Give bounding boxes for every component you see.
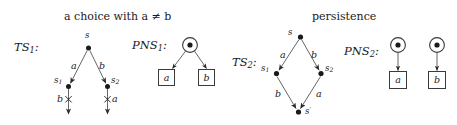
ts1-node-label-s: s [85, 30, 89, 40]
ts1-node-label-s2: s2 [111, 75, 119, 85]
ts2-node-s [298, 34, 303, 39]
ts1-s1-sub: 1 [58, 78, 62, 85]
ts1-s2-sub: 2 [115, 78, 119, 85]
system-label-ts1: TS1: [14, 40, 39, 55]
pns1-transition-b-label: b [203, 73, 209, 83]
ts2-node-s2 [318, 71, 323, 76]
ts1-node-s2 [105, 84, 110, 89]
ts2-node-s1 [274, 71, 279, 76]
ts1-label-text: TS [14, 40, 30, 54]
pns1-label-colon: : [163, 38, 167, 52]
ts1-edge-label-bottom-right: a [112, 93, 118, 104]
ts2-node-label-s1: s1 [261, 63, 269, 73]
ts2-nodes [274, 34, 324, 114]
pns2-transition-box-a[interactable]: a [389, 71, 407, 89]
ts2-node-label-s: s [288, 27, 292, 37]
ts1-edge-label-a: a [71, 60, 77, 71]
ts1-edge-label-b: b [99, 60, 105, 71]
pns2-place-a-token [395, 42, 400, 47]
ts2-sprime-mark: ′ [309, 106, 311, 114]
ts1-node-s [86, 46, 91, 51]
pns2-transition-a-label: a [395, 75, 401, 85]
pns1-arc-to-a [173, 51, 186, 69]
figure-root: a choice with a ≠ b persistence [0, 0, 457, 125]
ts1-label-colon: : [35, 40, 39, 54]
ts2-edge-label-a-top: a [280, 49, 286, 60]
diagram-vector-overlay [0, 0, 457, 125]
pns1-transition-a-label: a [164, 73, 170, 83]
ts1-node-label-s1: s1 [54, 75, 62, 85]
pns1-label-text: PNS [132, 38, 158, 52]
ts2-node-label-sprime: s′ [305, 106, 311, 116]
ts2-edge-label-b-bottom: b [275, 88, 281, 99]
pns2-graphics [391, 38, 445, 71]
pns1-transition-box-a[interactable]: a [158, 69, 175, 86]
pns2-transition-b-label: b [434, 75, 440, 85]
pns1-transition-box-b[interactable]: b [198, 69, 215, 86]
ts2-node-label-s2: s2 [325, 63, 333, 73]
system-label-pns1: PNS1: [132, 38, 167, 53]
ts1-s-text: s [85, 30, 89, 40]
ts2-label-colon: : [253, 55, 257, 69]
ts1-edge-label-bottom-left: b [57, 93, 63, 104]
pns2-place-b-token [434, 42, 439, 47]
ts2-s1-sub: 1 [265, 66, 269, 73]
ts1-cross-marks [66, 96, 111, 102]
pns2-label-colon: : [375, 44, 379, 58]
ts2-node-sprime [296, 109, 301, 114]
pns1-arc-to-b [194, 51, 206, 69]
ts2-s2-sub: 2 [329, 66, 333, 73]
pns1-place-token [187, 42, 192, 47]
ts2-edge-label-a-bottom: a [316, 88, 322, 99]
ts1-node-s1 [66, 84, 71, 89]
system-label-ts2: TS2: [232, 55, 257, 70]
pns1-graphics [173, 38, 207, 69]
ts2-edge-label-b-top: b [311, 49, 317, 60]
system-label-pns2: PNS2: [344, 44, 379, 59]
pns2-transition-box-b[interactable]: b [428, 71, 446, 89]
pns2-label-text: PNS [344, 44, 370, 58]
ts2-s-text: s [288, 27, 292, 37]
ts2-label-text: TS [232, 55, 248, 69]
